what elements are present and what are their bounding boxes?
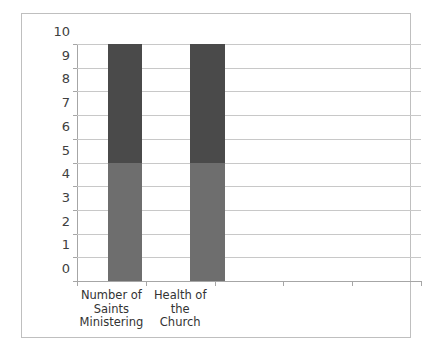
y-axis-tick-label: 2	[40, 214, 70, 227]
category-label-line: Saints	[77, 303, 146, 317]
y-axis-tick-label: 0	[40, 262, 70, 275]
bar-health-of-the-church[interactable]	[190, 44, 225, 281]
y-axis-tick-label: 5	[40, 143, 70, 156]
plot-area	[77, 44, 421, 281]
x-axis-category-label-1: Health of the Church	[146, 289, 215, 330]
category-label-line: Ministering	[77, 316, 146, 330]
y-axis-tick-label: 3	[40, 190, 70, 203]
x-axis-category-label-0: Number of Saints Ministering	[77, 289, 146, 330]
category-label-line: Number of	[77, 289, 146, 303]
y-axis-tick-label: 1	[40, 238, 70, 251]
bar-segment-upper	[108, 44, 142, 163]
x-axis-line	[77, 281, 421, 282]
x-axis-tick	[215, 281, 216, 286]
y-axis-tick-label: 4	[40, 167, 70, 180]
x-axis-tick	[77, 281, 78, 286]
y-axis-labels: 10 9 8 7 6 5 4 3 2 1 0	[36, 14, 70, 339]
y-axis-tick-label: 6	[40, 119, 70, 132]
y-axis-tick-label: 9	[40, 48, 70, 61]
bar-segment-lower	[108, 163, 142, 282]
chart-frame: 10 9 8 7 6 5 4 3 2 1 0	[21, 13, 411, 338]
x-axis-tick	[352, 281, 353, 286]
category-label-line: Church	[146, 316, 215, 330]
bar-segment-upper	[190, 44, 225, 163]
y-axis-tick-label: 8	[40, 72, 70, 85]
bar-number-of-saints-ministering[interactable]	[108, 44, 142, 281]
y-axis-tick-label: 10	[40, 25, 70, 38]
bar-segment-lower	[190, 163, 225, 282]
y-axis-tick-label: 7	[40, 96, 70, 109]
x-axis-tick	[146, 281, 147, 286]
x-axis-tick	[421, 281, 422, 286]
x-axis-tick	[283, 281, 284, 286]
category-label-line: Health of the	[146, 289, 215, 316]
